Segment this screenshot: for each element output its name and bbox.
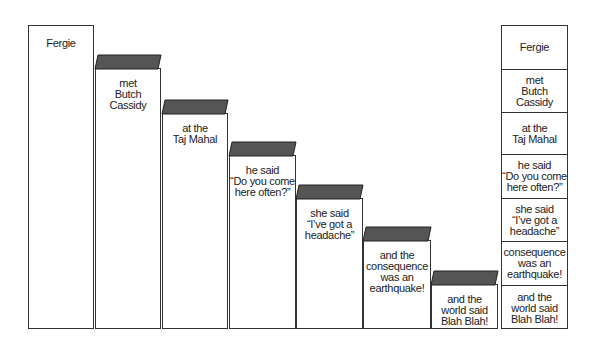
stair-column: Fergie <box>28 25 94 329</box>
roof-shape <box>161 99 229 115</box>
stair-column: she said “I’ve got a headache” <box>296 198 363 329</box>
stair-column-label: she said “I’ve got a headache” <box>297 208 362 241</box>
roof-shape <box>362 226 432 242</box>
stair-column: met Butch Cassidy <box>95 68 161 329</box>
stair-column: he said “Do you come here often?” <box>229 155 296 329</box>
stair-column-label: met Butch Cassidy <box>96 78 160 111</box>
stack-cell: she said “I’ve got a headache” <box>502 198 567 241</box>
stair-column-label: Fergie <box>29 38 93 49</box>
stack-cell: he said “Do you come here often?” <box>502 154 567 198</box>
roof-shape <box>94 54 162 70</box>
roof-shape <box>228 141 297 157</box>
stair-column-label: at the Taj Mahal <box>163 123 227 145</box>
stack-cell: met Butch Cassidy <box>502 69 567 112</box>
stair-column-label: he said “Do you come here often?” <box>230 165 295 198</box>
stack-cell: and the world said Blah Blah! <box>502 285 567 330</box>
stair-column: and the consequence was an earthquake! <box>363 240 431 329</box>
stair-column-label: and the consequence was an earthquake! <box>364 250 430 294</box>
summary-stack-column: Fergiemet Butch Cassidyat the Taj Mahalh… <box>501 25 568 329</box>
stack-cell: at the Taj Mahal <box>502 112 567 154</box>
roof-shape <box>430 270 499 286</box>
roof-shape <box>295 184 364 200</box>
stair-column: at the Taj Mahal <box>162 113 228 329</box>
stack-cell: consequence was an earthquake! <box>502 241 567 285</box>
stair-column-label: and the world said Blah Blah! <box>432 294 497 327</box>
stack-cell: Fergie <box>502 26 567 69</box>
stair-column: and the world said Blah Blah! <box>431 284 498 329</box>
